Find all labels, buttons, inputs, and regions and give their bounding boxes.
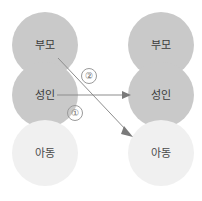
arrow-badge-2: ② — [81, 68, 97, 84]
circle-label-right-child: 아동 — [151, 148, 172, 159]
circle-label-left-child: 아동 — [35, 148, 56, 159]
circle-label-left-parent: 부모 — [35, 40, 56, 51]
arrow-badge-1-label: ① — [71, 109, 79, 118]
arrow-badge-2-label: ② — [85, 72, 93, 81]
circle-right-adult[interactable]: 성인 — [128, 62, 194, 128]
transaction-diagram: 부모 성인 아동 부모 성인 아동 ① ② — [0, 0, 202, 201]
arrow-badge-1: ① — [67, 105, 83, 121]
circle-right-child[interactable]: 아동 — [128, 120, 194, 186]
circle-label-right-adult: 성인 — [151, 90, 172, 101]
circle-left-child[interactable]: 아동 — [12, 120, 78, 186]
circle-label-right-parent: 부모 — [151, 40, 172, 51]
circle-label-left-adult: 성인 — [35, 90, 56, 101]
